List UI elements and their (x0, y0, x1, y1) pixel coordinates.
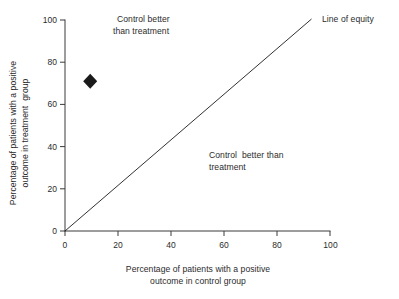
x-axis-title-line2: outcome in control group (65, 275, 331, 287)
chart-canvas (0, 0, 399, 299)
x-tick-label-100: 100 (319, 240, 342, 251)
y-tick-label-80: 80 (40, 57, 57, 68)
lower-region-label-line1: Control better than (209, 149, 284, 161)
x-tick-label-60: 60 (214, 240, 234, 251)
y-tick-label-100: 100 (34, 15, 57, 26)
x-tick-label-20: 20 (108, 240, 128, 251)
y-axis-title-line1: Percentage of patients with a positive (7, 18, 19, 248)
line-of-equity (65, 19, 312, 231)
data-point-marker (83, 74, 97, 89)
y-tick-label-0: 0 (40, 226, 57, 237)
upper-region-label-line2: than treatment (113, 25, 169, 37)
y-axis-ticks (60, 20, 65, 231)
y-tick-label-60: 60 (40, 99, 57, 110)
x-tick-label-40: 40 (161, 240, 181, 251)
chart-figure: 0 20 40 60 80 100 0 20 40 60 80 100 Cont… (0, 0, 399, 299)
upper-region-label-line1: Control better (117, 13, 170, 25)
y-axis-title: Percentage of patients with a positive o… (7, 18, 33, 248)
y-tick-label-40: 40 (40, 142, 57, 153)
x-tick-label-0: 0 (55, 240, 75, 251)
y-tick-label-20: 20 (40, 184, 57, 195)
y-axis-title-line2: outcome in treatment group (19, 18, 31, 248)
x-axis-title-line1: Percentage of patients with a positive (65, 263, 331, 275)
x-tick-label-80: 80 (267, 240, 287, 251)
lower-region-label-line2: treatment (209, 161, 246, 173)
line-of-equity-label: Line of equity (322, 13, 374, 25)
x-axis-ticks (65, 231, 330, 236)
